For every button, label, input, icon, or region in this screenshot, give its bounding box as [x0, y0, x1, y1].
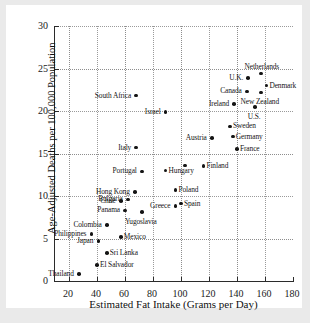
data-point-label: Hungary [169, 167, 194, 174]
data-point-label: Netherlands [244, 62, 279, 69]
data-point [126, 198, 130, 202]
data-point-label: Yugoslavia [125, 218, 157, 225]
data-point-label: Greece [150, 202, 170, 209]
y-axis-tick-label: 10 [28, 191, 48, 201]
data-point-label: U.K. [229, 74, 243, 81]
data-point-label: Finland [206, 163, 228, 170]
data-point [134, 94, 138, 98]
data-point [179, 202, 183, 206]
data-point [174, 188, 178, 192]
y-axis-title: Age-Adjusted Deaths per 100,000 Populati… [47, 10, 58, 266]
data-point-label: Denmark [269, 82, 296, 89]
x-axis-tick-label: 120 [201, 289, 216, 299]
x-axis-tick-label: 100 [173, 289, 188, 299]
data-point-label: Philippines [54, 231, 86, 238]
data-point [245, 90, 249, 94]
data-point [123, 209, 127, 213]
x-axis-tick-label: 80 [147, 289, 157, 299]
data-point-label: U.S. [248, 112, 261, 119]
data-point-label: South Africa [95, 92, 131, 99]
data-point-label: New Zealand [241, 98, 280, 105]
x-axis-tick [237, 277, 238, 282]
x-axis-tick [181, 277, 182, 282]
data-point [174, 204, 178, 208]
data-point [228, 125, 232, 129]
data-point [231, 135, 235, 139]
y-axis-tick-label: 5 [28, 234, 48, 244]
y-axis-tick-label: 30 [28, 21, 48, 31]
x-axis-tick-label: 60 [119, 289, 129, 299]
data-point [105, 223, 109, 227]
y-axis-tick-label: 0 [28, 276, 48, 286]
data-point [105, 251, 109, 255]
data-point-label: Thailand [48, 270, 73, 277]
chart-page-sheet: Estimated Fat Intake (Grams per Day) Age… [6, 5, 302, 308]
data-point [140, 210, 144, 214]
data-point-label: Portugal [113, 168, 137, 175]
data-point-label: Sri Lanka [110, 249, 138, 256]
x-axis-tick [209, 277, 210, 282]
data-point [134, 146, 138, 150]
data-point-label: Spain [184, 200, 200, 207]
y-axis-tick-label: 15 [28, 149, 48, 159]
x-axis-tick-label: 20 [63, 289, 73, 299]
data-point [133, 190, 137, 194]
data-point-label: El Salvador [100, 261, 134, 268]
x-axis-tick-label: 140 [229, 289, 244, 299]
data-point-label: Sweden [233, 123, 256, 130]
x-axis-tick [293, 277, 294, 282]
data-point [164, 110, 168, 114]
data-point-label: France [240, 146, 260, 153]
y-gridline [55, 26, 293, 27]
data-point [140, 170, 144, 174]
x-axis-tick [125, 277, 126, 282]
data-point-label: Bulgaria [98, 196, 123, 203]
data-point-label: Colombia [73, 221, 101, 228]
data-point [210, 136, 214, 140]
data-point [232, 102, 236, 106]
y-gridline [55, 196, 293, 197]
data-point [246, 76, 250, 80]
data-point-label: Canada [220, 88, 242, 95]
x-axis-title: Estimated Fat Intake (Grams per Day) [54, 299, 293, 310]
data-point-label: Poland [178, 186, 198, 193]
data-point [97, 239, 101, 243]
data-point-label: Austria [186, 134, 207, 141]
data-point [265, 84, 269, 88]
y-axis-tick-label: 20 [28, 106, 48, 116]
data-point-label: Mexico [124, 233, 146, 240]
y-axis-tick-label: 25 [28, 64, 48, 74]
data-point [202, 164, 206, 168]
data-point-label: Italy [118, 144, 131, 151]
data-point [235, 147, 239, 151]
y-axis-tick [54, 281, 59, 282]
data-point [259, 91, 263, 95]
data-point [259, 72, 263, 76]
data-point-label: Ireland [209, 100, 229, 107]
data-point [164, 169, 168, 173]
data-point [95, 263, 99, 267]
data-point-label: Israel [145, 108, 161, 115]
data-point [119, 235, 123, 239]
x-axis-tick [265, 277, 266, 282]
x-axis-tick [153, 277, 154, 282]
x-axis-tick-label: 160 [257, 289, 272, 299]
x-axis-tick-label: 40 [91, 289, 101, 299]
y-gridline [55, 154, 293, 155]
figure-root: Estimated Fat Intake (Grams per Day) Age… [0, 0, 310, 323]
data-point-label: Panama [97, 207, 120, 214]
x-axis-tick [97, 277, 98, 282]
x-axis-tick-label: 180 [285, 289, 300, 299]
data-point-label: Germany [236, 133, 263, 140]
data-point [77, 272, 81, 276]
data-point-label: Hong Kong [96, 188, 130, 195]
